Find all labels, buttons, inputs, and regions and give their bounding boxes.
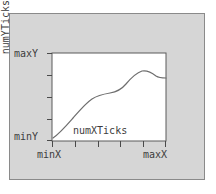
y-axis-title-text: numYTicks [0, 0, 11, 54]
plot-svg [0, 0, 216, 194]
x-axis-max-label: maxX [143, 149, 167, 160]
y-axis-min-label: minY [14, 131, 38, 142]
y-axis-ticks [47, 54, 52, 141]
figure-canvas: maxY minY minX maxX numXTicks numYTicks [0, 0, 216, 194]
x-axis-min-label: minX [37, 149, 61, 160]
x-axis-ticks [53, 141, 166, 147]
y-axis-max-label: maxY [14, 48, 38, 59]
x-axis-title: numXTicks [73, 125, 127, 136]
